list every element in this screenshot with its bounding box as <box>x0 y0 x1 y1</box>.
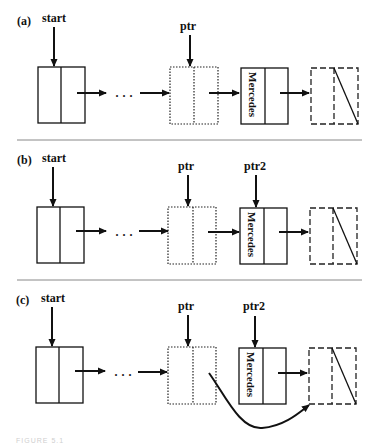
panel-label-c: (c) <box>16 293 29 307</box>
panel-a: (a) start · · · ptr Mercedes <box>17 11 358 124</box>
ellipsis: · · · <box>115 89 133 103</box>
first-node <box>37 207 84 263</box>
ellipsis: · · · <box>114 368 132 382</box>
target-node: Mercedes <box>240 208 287 264</box>
null-link-slash <box>333 208 357 264</box>
first-node <box>36 347 83 403</box>
null-link-slash <box>332 348 356 404</box>
linked-list-deletion-diagram: (a) start · · · ptr Mercedes (b) <box>0 0 376 446</box>
previous-node <box>168 347 216 404</box>
next-node <box>311 68 358 124</box>
node-data-mercedes: Mercedes <box>246 212 258 258</box>
ellipsis: · · · <box>115 228 133 242</box>
null-link-slash <box>334 68 358 124</box>
start-pointer-label: start <box>42 151 66 165</box>
previous-node <box>170 67 218 124</box>
ptr-pointer-label: ptr <box>180 19 197 33</box>
panel-b: (b) start · · · ptr ptr2 Mercedes <box>17 151 357 264</box>
figure-caption: FIGURE 5.1 <box>16 437 64 444</box>
previous-node <box>168 207 216 264</box>
bypass-link-arrow <box>209 373 309 428</box>
next-node <box>310 208 357 264</box>
ptr2-pointer-label: ptr2 <box>243 299 265 313</box>
first-node <box>38 67 85 123</box>
node-data-mercedes: Mercedes <box>245 352 257 398</box>
panel-label-b: (b) <box>17 153 32 167</box>
target-node: Mercedes <box>241 68 288 124</box>
next-node <box>309 348 356 404</box>
ptr-pointer-label: ptr <box>178 159 195 173</box>
ptr2-pointer-label: ptr2 <box>244 159 266 173</box>
start-pointer-label: start <box>42 11 66 25</box>
panel-c: (c) start · · · ptr ptr2 Mercedes <box>16 291 356 428</box>
node-data-mercedes: Mercedes <box>247 72 259 118</box>
ptr-pointer-label: ptr <box>178 299 195 313</box>
target-node: Mercedes <box>239 348 286 404</box>
panel-label-a: (a) <box>17 14 31 28</box>
start-pointer-label: start <box>41 291 65 305</box>
